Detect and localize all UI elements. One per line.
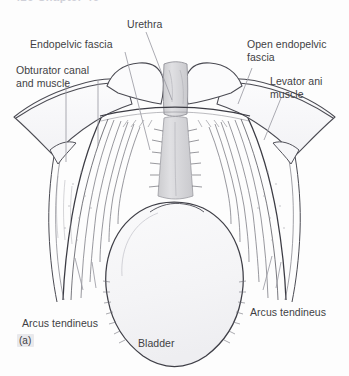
left-obturator-internus-inner — [56, 160, 64, 300]
right-obturator-internus-inner — [285, 160, 293, 300]
urethra-upper-segment — [163, 62, 188, 117]
label-endopelvic-fascia: Endopelvic fascia — [30, 38, 113, 51]
label-arcus-tendineus-right: Arcus tendineus — [250, 306, 326, 319]
label-open-endopelvic-fascia: Open endopelvic fascia — [247, 38, 327, 63]
leader-arcus-left-2 — [92, 262, 96, 288]
label-levator-ani-muscle: Levator ani muscle — [270, 75, 323, 100]
figure-part-marker: (a) — [17, 334, 34, 347]
label-obturator-canal-and-muscle: Obturator canal and muscle — [16, 64, 89, 89]
leader-arcus-left — [75, 258, 83, 290]
figure-page: 426 Chapter 46 — [0, 0, 349, 376]
label-arcus-tendineus-left: Arcus tendineus — [22, 317, 98, 330]
label-urethra: Urethra — [127, 18, 162, 31]
label-bladder: Bladder — [138, 337, 175, 350]
